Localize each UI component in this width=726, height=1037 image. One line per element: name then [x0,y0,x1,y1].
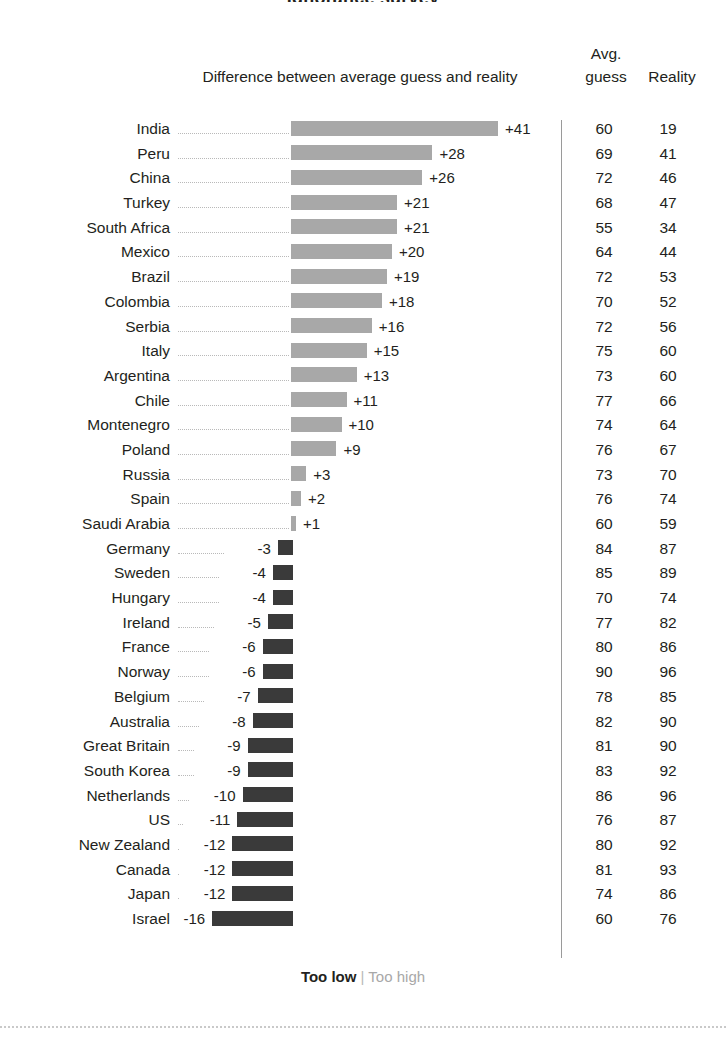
country-label: China [0,169,170,186]
bar-too-low [253,713,293,728]
bar-too-high [291,516,296,531]
avg-guess-value: 72 [574,268,634,285]
difference-value: -3 [230,540,271,557]
avg-guess-value: 84 [574,540,634,557]
difference-value: +11 [354,392,378,409]
leader-line [178,627,214,629]
table-row: Serbia+167256 [0,316,726,341]
legend: Too low|Too high [0,968,726,985]
country-label: Saudi Arabia [0,515,170,532]
table-row: Peru+286941 [0,143,726,168]
difference-value: +41 [505,120,530,137]
country-label: Norway [0,663,170,680]
reality-value: 92 [638,836,698,853]
table-row: Chile+117766 [0,390,726,415]
column-header-avg-line2: guess [576,68,636,86]
leader-line [178,207,289,209]
avg-guess-value: 74 [574,885,634,902]
bar-too-low [232,861,293,876]
table-row: South Africa+215534 [0,217,726,242]
reality-value: 64 [638,416,698,433]
table-row: Mexico+206444 [0,241,726,266]
table-row: Saudi Arabia+16059 [0,513,726,538]
country-label: Belgium [0,688,170,705]
avg-guess-value: 74 [574,416,634,433]
avg-guess-value: 60 [574,120,634,137]
bar-too-high [291,170,422,185]
difference-value: +19 [394,268,419,285]
country-label: Italy [0,342,170,359]
reality-value: 87 [638,540,698,557]
bar-too-low [243,787,294,802]
reality-value: 74 [638,589,698,606]
avg-guess-value: 73 [574,466,634,483]
bar-too-low [273,590,293,605]
reality-value: 96 [638,663,698,680]
difference-value: +16 [379,318,404,335]
bar-too-low [248,738,293,753]
avg-guess-value: 60 [574,910,634,927]
leader-line [178,602,219,604]
table-row: Norway-69096 [0,661,726,686]
country-label: Sweden [0,564,170,581]
leader-line [178,701,204,703]
reality-value: 66 [638,392,698,409]
avg-guess-value: 64 [574,243,634,260]
bar-too-high [291,441,336,456]
avg-guess-value: 70 [574,293,634,310]
table-row: Great Britain-98190 [0,735,726,760]
bar-too-high [291,244,392,259]
table-row: Hungary-47074 [0,587,726,612]
table-row: Australia-88290 [0,711,726,736]
country-label: South Korea [0,762,170,779]
reality-value: 47 [638,194,698,211]
table-row: Montenegro+107464 [0,414,726,439]
table-row: China+267246 [0,167,726,192]
bar-too-high [291,219,397,234]
difference-value: +15 [374,342,399,359]
table-row: India+416019 [0,118,726,143]
country-label: Brazil [0,268,170,285]
reality-value: 59 [638,515,698,532]
reality-value: 52 [638,293,698,310]
reality-value: 41 [638,145,698,162]
difference-value: +9 [343,441,360,458]
reality-value: 56 [638,318,698,335]
difference-value: -9 [200,762,241,779]
leader-line [178,256,289,258]
difference-value: -12 [184,861,225,878]
avg-guess-value: 68 [574,194,634,211]
reality-value: 86 [638,885,698,902]
reality-value: 76 [638,910,698,927]
country-label: US [0,811,170,828]
reality-value: 19 [638,120,698,137]
difference-value: -9 [200,737,241,754]
table-row: Israel-166076 [0,908,726,933]
country-label: Hungary [0,589,170,606]
country-label: Netherlands [0,787,170,804]
avg-guess-value: 85 [574,564,634,581]
avg-guess-value: 70 [574,589,634,606]
country-label: Ireland [0,614,170,631]
leader-line [178,651,209,653]
legend-too-low: Too low [301,968,357,985]
bar-too-low [212,911,293,926]
chart-rows: India+416019Peru+286941China+267246Turke… [0,118,726,933]
difference-value: -10 [195,787,236,804]
reality-value: 85 [638,688,698,705]
avg-guess-value: 83 [574,762,634,779]
reality-value: 74 [638,490,698,507]
leader-line [178,503,289,505]
difference-value: -4 [225,564,266,581]
table-row: Sweden-48589 [0,562,726,587]
country-label: Mexico [0,243,170,260]
country-label: Serbia [0,318,170,335]
bar-too-low [258,688,293,703]
avg-guess-value: 73 [574,367,634,384]
leader-line [178,306,289,308]
avg-guess-value: 82 [574,713,634,730]
leader-line [178,750,194,752]
avg-guess-value: 77 [574,614,634,631]
reality-value: 53 [638,268,698,285]
avg-guess-value: 81 [574,737,634,754]
